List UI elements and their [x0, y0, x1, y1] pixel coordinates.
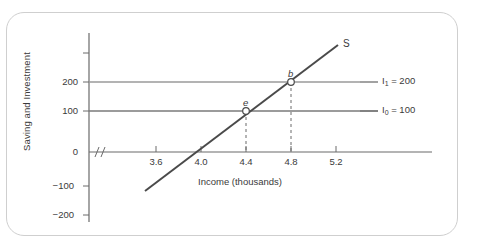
i1-label-value: = 200 [389, 75, 416, 86]
y-tick-label-neg200: −200 [34, 209, 74, 220]
y-axis-title: Saving and Investment [21, 32, 32, 172]
y-tick-label-100: 100 [38, 105, 78, 116]
x-tick-label-3-6: 3.6 [136, 156, 176, 167]
y-tick-label-neg100: −100 [34, 180, 74, 191]
y-axis-ticks [83, 53, 89, 215]
i1-line-label: I1 = 200 [382, 75, 415, 87]
point-label-b: b [288, 68, 293, 79]
curve-label-s: S [343, 38, 350, 49]
data-point-b [288, 79, 295, 86]
saving-curve-s [145, 45, 338, 191]
x-tick-label-5-2: 5.2 [316, 156, 356, 167]
x-tick-label-4-0: 4.0 [181, 156, 221, 167]
i0-label-value: = 100 [389, 104, 416, 115]
x-axis-title: Income (thousands) [150, 176, 330, 187]
y-tick-label-200: 200 [38, 76, 78, 87]
i0-line-label: I0 = 100 [382, 104, 415, 116]
x-tick-label-4-8: 4.8 [271, 156, 311, 167]
data-point-e [243, 108, 250, 115]
point-label-e: e [243, 97, 248, 108]
x-tick-label-4-4: 4.4 [226, 156, 266, 167]
y-tick-label-0: 0 [38, 146, 78, 157]
figure-container: Saving and Investment Income (thousands)… [0, 0, 479, 249]
